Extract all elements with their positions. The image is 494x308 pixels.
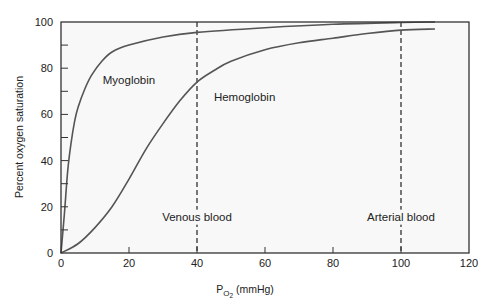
x-axis-title: PO2 (mmHg) xyxy=(216,283,274,299)
y-tick-label: 100 xyxy=(35,16,53,28)
label-hemoglobin: Hemoglobin xyxy=(214,91,275,103)
y-tick-label: 60 xyxy=(41,108,53,120)
x-tick-label: 0 xyxy=(58,257,64,269)
label-arterial-blood: Arterial blood xyxy=(367,211,435,223)
y-tick-label: 80 xyxy=(41,62,53,74)
x-axis-title-p: P xyxy=(216,283,223,295)
y-tick-label: 0 xyxy=(47,247,53,259)
oxygen-dissociation-chart: 020406080100120020406080100 MyoglobinHem… xyxy=(0,0,494,308)
x-axis-title-units: (mmHg) xyxy=(233,283,274,295)
y-axis-title: Percent oxygen saturation xyxy=(13,76,25,198)
x-tick-label: 80 xyxy=(327,257,339,269)
label-myoglobin: Myoglobin xyxy=(103,74,155,86)
x-tick-label: 60 xyxy=(259,257,271,269)
y-tick-label: 20 xyxy=(41,201,53,213)
x-tick-label: 120 xyxy=(460,257,478,269)
label-venous-blood: Venous blood xyxy=(162,211,232,223)
x-tick-label: 40 xyxy=(191,257,203,269)
x-tick-label: 20 xyxy=(123,257,135,269)
y-tick-label: 40 xyxy=(41,155,53,167)
x-tick-label: 100 xyxy=(392,257,410,269)
